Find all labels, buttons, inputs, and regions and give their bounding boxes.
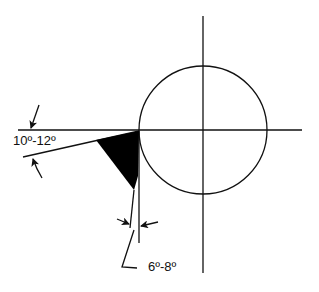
bottom-angle-arrow-right [141,222,158,226]
top-angle-arrow-upper [31,105,39,128]
clearance-line-lower [122,230,137,268]
tool-wedge [96,131,139,190]
clearance-line-upper [130,190,134,228]
top-angle-arrow-lower [33,159,42,178]
top-angle-label: 10º-12º [13,133,56,148]
bottom-angle-label: 6º-8º [148,259,176,274]
bottom-angle-arrow-left [117,219,129,224]
